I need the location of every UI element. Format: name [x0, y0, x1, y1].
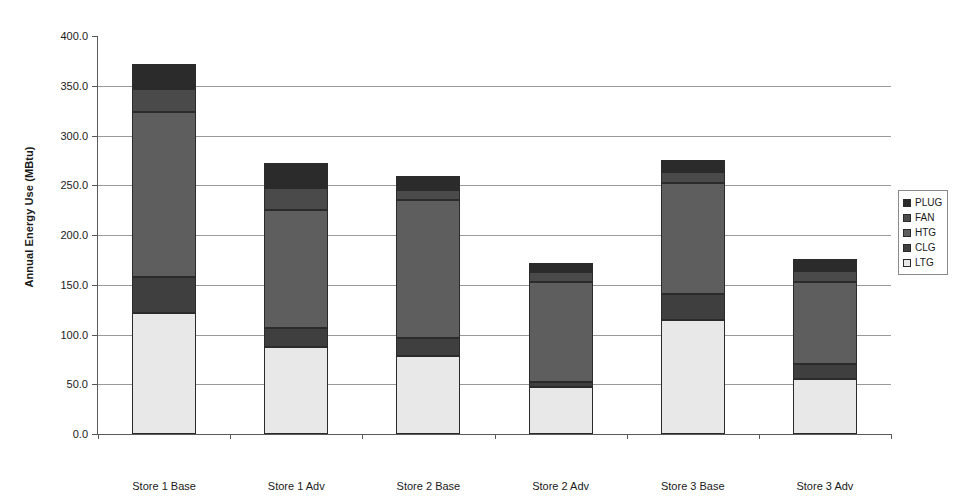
bar-segment-plug[interactable] — [132, 64, 196, 89]
bar-segment-plug[interactable] — [661, 160, 725, 172]
y-axis-title: Annual Energy Use (MBtu) — [18, 0, 40, 434]
bar-segment-clg[interactable] — [132, 277, 196, 313]
stacked-bar[interactable] — [132, 36, 196, 434]
x-axis-tick-mark — [230, 434, 231, 439]
x-axis-tick-label: Store 3 Base — [661, 480, 725, 492]
bar-group[interactable] — [264, 36, 328, 434]
bar-segment-plug[interactable] — [529, 263, 593, 272]
legend: PLUGFANHTGCLGLTG — [898, 190, 948, 275]
bar-segment-ltg[interactable] — [396, 356, 460, 434]
bar-segment-htg[interactable] — [264, 210, 328, 327]
y-axis-tick-label: 0.0 — [73, 429, 88, 440]
bar-segment-clg[interactable] — [529, 382, 593, 387]
stacked-bar[interactable] — [529, 36, 593, 434]
stacked-bar[interactable] — [793, 36, 857, 434]
bar-segment-fan[interactable] — [661, 172, 725, 183]
stacked-bar[interactable] — [396, 36, 460, 434]
legend-item-label: PLUG — [915, 198, 942, 208]
legend-item-label: LTG — [915, 258, 934, 268]
bar-segment-ltg[interactable] — [661, 320, 725, 434]
energy-use-stacked-bar-chart: Annual Energy Use (MBtu) 400.0350.0300.0… — [0, 0, 975, 500]
bar-segment-fan[interactable] — [264, 188, 328, 210]
bar-group[interactable] — [529, 36, 593, 434]
x-axis-tick-mark — [495, 434, 496, 439]
bar-segment-htg[interactable] — [132, 112, 196, 277]
y-axis-tick-label: 100.0 — [60, 329, 88, 340]
y-axis-tick-label: 300.0 — [60, 130, 88, 141]
bar-segment-fan[interactable] — [396, 190, 460, 200]
bar-segment-htg[interactable] — [793, 282, 857, 365]
bar-segment-ltg[interactable] — [132, 313, 196, 434]
legend-item-label: HTG — [915, 228, 936, 238]
bar-segment-htg[interactable] — [529, 282, 593, 382]
bar-group[interactable] — [396, 36, 460, 434]
bar-segment-clg[interactable] — [396, 338, 460, 356]
legend-item-label: CLG — [915, 243, 936, 253]
legend-item-ltg[interactable]: LTG — [903, 255, 942, 270]
y-axis-title-text: Annual Energy Use (MBtu) — [23, 146, 35, 287]
bar-segment-fan[interactable] — [132, 89, 196, 112]
bar-segment-plug[interactable] — [264, 163, 328, 188]
bar-segment-fan[interactable] — [793, 271, 857, 282]
y-axis-tick-label: 200.0 — [60, 230, 88, 241]
legend-item-htg[interactable]: HTG — [903, 225, 942, 240]
x-axis-tick-label: Store 2 Base — [397, 480, 461, 492]
x-axis-tick-mark — [362, 434, 363, 439]
y-axis-tick-label: 50.0 — [67, 379, 88, 390]
x-axis-tick-label: Store 2 Adv — [532, 480, 589, 492]
bar-segment-ltg[interactable] — [264, 347, 328, 434]
bar-group[interactable] — [793, 36, 857, 434]
bar-segment-htg[interactable] — [396, 200, 460, 338]
x-axis-tick-label: Store 1 Base — [132, 480, 196, 492]
y-axis-tick-labels: 400.0350.0300.0250.0200.0150.0100.050.00… — [44, 0, 92, 500]
bar-segment-ltg[interactable] — [793, 379, 857, 434]
y-axis-tick-label: 250.0 — [60, 180, 88, 191]
legend-swatch-icon — [903, 214, 911, 222]
x-axis-tick-label: Store 1 Adv — [268, 480, 325, 492]
legend-item-plug[interactable]: PLUG — [903, 195, 942, 210]
legend-swatch-icon — [903, 259, 911, 267]
x-axis-tick-mark — [98, 434, 99, 439]
bar-group[interactable] — [132, 36, 196, 434]
bar-segment-clg[interactable] — [264, 328, 328, 348]
legend-swatch-icon — [903, 244, 911, 252]
y-axis-tick-label: 150.0 — [60, 279, 88, 290]
legend-item-label: FAN — [915, 213, 934, 223]
bar-segment-plug[interactable] — [396, 176, 460, 190]
x-axis-tick-label: Store 3 Adv — [796, 480, 853, 492]
bar-segment-htg[interactable] — [661, 183, 725, 293]
y-axis-tick-label: 350.0 — [60, 80, 88, 91]
legend-swatch-icon — [903, 199, 911, 207]
legend-item-clg[interactable]: CLG — [903, 240, 942, 255]
bar-segment-plug[interactable] — [793, 259, 857, 271]
stacked-bar[interactable] — [661, 36, 725, 434]
bar-group[interactable] — [661, 36, 725, 434]
bars-layer — [98, 36, 891, 434]
x-axis-tick-mark — [891, 434, 892, 439]
bar-segment-ltg[interactable] — [529, 387, 593, 434]
stacked-bar[interactable] — [264, 36, 328, 434]
legend-swatch-icon — [903, 229, 911, 237]
bar-segment-clg[interactable] — [661, 294, 725, 320]
legend-item-fan[interactable]: FAN — [903, 210, 942, 225]
plot-area: Store 1 BaseStore 1 AdvStore 2 BaseStore… — [97, 36, 891, 435]
bar-segment-clg[interactable] — [793, 364, 857, 379]
y-axis-tick-label: 400.0 — [60, 31, 88, 42]
x-axis-tick-mark — [627, 434, 628, 439]
x-axis-tick-mark — [759, 434, 760, 439]
bar-segment-fan[interactable] — [529, 272, 593, 282]
